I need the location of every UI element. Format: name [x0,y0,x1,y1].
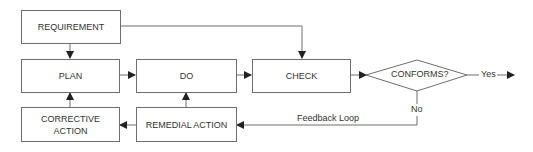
check-node: CHECK [252,59,351,93]
no-label: No [411,104,423,114]
plan-label: PLAN [59,70,83,82]
remedial-action-node: REMEDIAL ACTION [136,107,237,142]
plan-node: PLAN [21,59,120,93]
requirement-label: REQUIREMENT [38,21,105,33]
corrective-label-line2: ACTION [53,125,87,137]
conforms-label: CONFORMS? [391,69,449,79]
do-node: DO [136,59,237,93]
yes-label: Yes [481,69,496,79]
requirement-node: REQUIREMENT [21,10,121,44]
check-label: CHECK [286,70,318,82]
corrective-label-line1: CORRECTIVE [41,113,100,125]
remedial-label: REMEDIAL ACTION [146,119,228,131]
corrective-action-node: CORRECTIVE ACTION [21,107,120,142]
do-label: DO [180,70,194,82]
feedback-loop-label: Feedback Loop [297,113,359,123]
